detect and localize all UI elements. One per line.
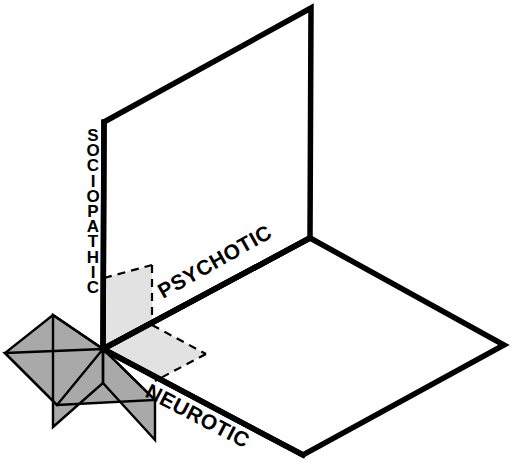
- neurotic-axis-label: NEUROTIC: [142, 379, 253, 452]
- sociopathic-letter: C: [82, 280, 104, 295]
- diagram-canvas: PSYCHOTIC NEUROTIC SOCIOPATHIC: [0, 0, 515, 468]
- three-plane-diagram: PSYCHOTIC NEUROTIC: [0, 0, 515, 468]
- sociopathic-axis-label: SOCIOPATHIC: [82, 128, 104, 295]
